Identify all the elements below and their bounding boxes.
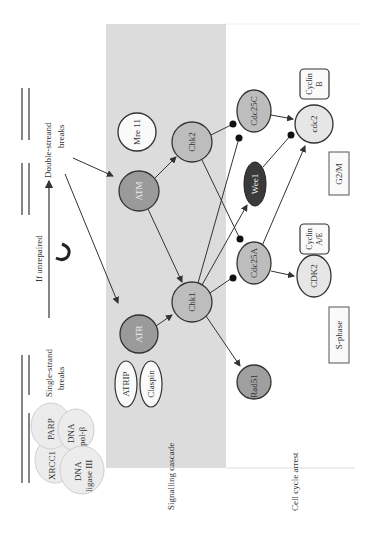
polb-label: pol-β [77,427,87,446]
dna-polb-ellipse [58,409,94,451]
single-strand-label-2: breaks [56,366,66,390]
inhibit-dot-cdc25c-1 [230,121,237,128]
inhibit-dot-cdc25a-1 [237,236,244,243]
double-strand-label-2: breaks [56,124,66,148]
edge-cdc25a-cdk2 [271,271,294,276]
dna-label-1: DNA [66,423,76,443]
g2m-label: G2/M [334,163,344,185]
chk1-label: Chk1 [187,292,197,312]
xrcc1-label: XRCC1 [47,451,57,480]
parp-label: PARP [46,418,56,440]
s-phase-label: S-phase [334,321,344,350]
atrip-label: ATRIP [121,371,131,396]
single-strand-label-1: Single-strand [44,349,54,397]
dna-damage-diagram: If unrepaired Double-streand breaks Sing… [0,0,369,533]
cell-cycle-arrest-label: Cell cycle arrest [290,452,300,511]
inhibit-dot-cdc25a-2 [230,275,237,282]
chk2-label: Chk2 [187,132,197,152]
claspin-label: Claspin [146,370,156,398]
dna-label-2: DNA [73,461,83,481]
atr-label: ATR [134,325,144,342]
single-strand-dna-icon [22,355,29,483]
double-strand-dna-icon [22,88,29,215]
rad51-label: Rad51 [249,374,259,398]
inhibit-dot-cdc2 [288,132,295,139]
cdc25a-label: Cdc25A [249,248,259,278]
cyclin-b-label-2: B [315,81,324,86]
if-unrepaired-label: If unrepaired [34,235,44,282]
cyclin-ae-label-1: Cyclin [305,228,314,249]
cdc2-label: cdc2 [309,116,319,133]
edge-cdc25c-cdc2 [271,115,293,119]
curved-arrow-icon [56,244,69,260]
cdc25c-label: Cdc25C [249,96,259,126]
atm-label: ATM [134,181,144,200]
wee1-label: Wee1 [250,174,260,194]
cyclin-b-label-1: Cyclin [305,73,314,94]
mre11-label: Mre 11 [132,119,142,145]
signalling-cascade-label: Signalling cascade [166,443,176,510]
edge-wee1-cdc2 [263,135,291,167]
cyclin-ae-label-2: A/E [315,232,324,245]
ligase-label: ligase III [84,460,94,492]
inhibit-dot-cdc25c-2 [236,135,243,142]
cdk2-label: CDK2 [309,264,319,288]
double-strand-label-1: Double-streand [43,122,53,178]
